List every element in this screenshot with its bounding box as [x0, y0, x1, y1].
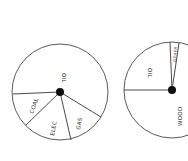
right-pie-hub	[168, 86, 176, 94]
right-pie-label-wood: WOOD	[177, 106, 183, 126]
left-pie-label-coal: COAL	[28, 97, 39, 115]
left-pie-label-elec: ELEC	[49, 120, 58, 136]
pie-charts-figure: OIL COAL ELEC GAS OIL OTHER WOOD	[0, 0, 188, 161]
right-pie-label-oil: OIL	[147, 68, 153, 79]
right-pie-divider-oil-other	[170, 42, 172, 90]
left-pie-divider-oil-coal	[13, 92, 60, 94]
right-pie-chart: OIL OTHER WOOD	[124, 42, 188, 138]
left-pie-label-gas: GAS	[75, 117, 83, 130]
left-pie-chart: OIL COAL ELEC GAS	[12, 44, 108, 140]
right-pie-label-other: OTHER	[172, 46, 178, 62]
left-pie-divider-elec-gas	[60, 92, 71, 140]
left-pie-divider-gas-oil	[60, 92, 101, 117]
left-pie-label-oil: OIL	[61, 73, 67, 84]
left-pie-hub	[56, 88, 64, 96]
